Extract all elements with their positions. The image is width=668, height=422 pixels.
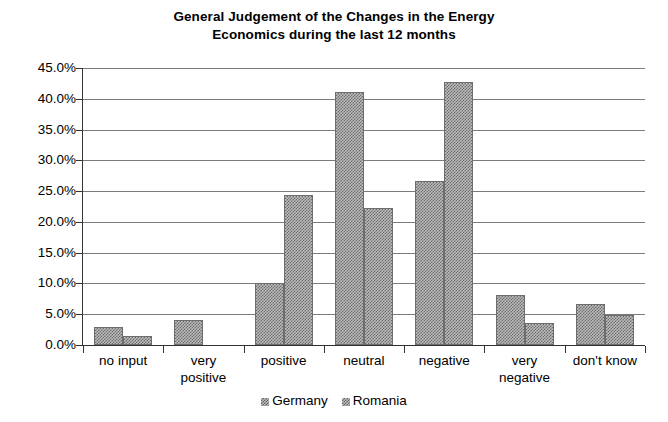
y-axis-tick-label: 40.0% — [4, 92, 76, 106]
legend-label: Romania — [353, 392, 407, 410]
x-axis-category-label-line: very — [484, 352, 564, 369]
x-axis-tick — [645, 346, 646, 353]
x-axis-category-label-line: don't know — [565, 352, 645, 369]
legend-swatch-icon — [261, 398, 269, 406]
bar-romania-very-negative — [525, 323, 554, 345]
plot-area — [83, 68, 645, 345]
x-axis-category-label: positive — [244, 352, 324, 369]
bar-germany-very-positive — [174, 320, 203, 345]
chart-title: General Judgement of the Changes in the … — [0, 8, 668, 44]
x-axis-category-label: negative — [404, 352, 484, 369]
x-axis-category-label: neutral — [324, 352, 404, 369]
x-axis-category-label-line: negative — [484, 369, 564, 386]
y-axis-tick-label: 5.0% — [4, 307, 76, 321]
legend-swatch-icon — [342, 398, 350, 406]
y-axis-tick-label: 45.0% — [4, 61, 76, 75]
x-axis-category-label: no input — [83, 352, 163, 369]
y-axis-tick-label: 15.0% — [4, 246, 76, 260]
y-axis-tick-label: 0.0% — [4, 338, 76, 352]
bar-germany-no-input — [94, 327, 123, 345]
gridline — [83, 130, 645, 131]
x-axis-category-label-line: neutral — [324, 352, 404, 369]
legend-label: Germany — [272, 392, 328, 410]
chart-title-line-1: General Judgement of the Changes in the … — [0, 8, 668, 26]
y-axis-tick-label: 30.0% — [4, 153, 76, 167]
x-axis-line — [83, 345, 645, 346]
legend-item-romania[interactable]: Romania — [342, 392, 407, 410]
bar-germany-very-negative — [496, 295, 525, 345]
bar-germany-negative — [415, 181, 444, 345]
bar-romania-no-input — [123, 336, 152, 345]
chart-legend: GermanyRomania — [0, 392, 668, 410]
y-axis-tick-label: 35.0% — [4, 123, 76, 137]
gridline — [83, 99, 645, 100]
legend-item-germany[interactable]: Germany — [261, 392, 328, 410]
gridline — [83, 68, 645, 69]
y-axis-tick-label: 25.0% — [4, 184, 76, 198]
bar-romania-negative — [444, 82, 473, 345]
x-axis-labels: no inputverypositivepositiveneutralnegat… — [83, 352, 645, 397]
x-axis-category-label-line: no input — [83, 352, 163, 369]
chart-title-line-2: Economics during the last 12 months — [0, 26, 668, 44]
bar-romania-neutral — [364, 208, 393, 345]
y-axis-tick-label: 10.0% — [4, 276, 76, 290]
bar-germany-don-t-know — [576, 304, 605, 345]
x-axis-category-label: don't know — [565, 352, 645, 369]
x-axis-category-label: verynegative — [484, 352, 564, 386]
x-axis-category-label-line: very — [163, 352, 243, 369]
bar-germany-neutral — [335, 92, 364, 345]
x-axis-category-label-line: positive — [163, 369, 243, 386]
y-axis-labels: 0.0%5.0%10.0%15.0%20.0%25.0%30.0%35.0%40… — [0, 0, 76, 422]
gridline — [83, 160, 645, 161]
x-axis-category-label: verypositive — [163, 352, 243, 386]
x-axis-category-label-line: positive — [244, 352, 324, 369]
x-axis-category-label-line: negative — [404, 352, 484, 369]
gridline — [83, 191, 645, 192]
bar-germany-positive — [255, 283, 284, 345]
bar-romania-positive — [284, 195, 313, 345]
bar-romania-don-t-know — [605, 315, 634, 345]
y-axis-tick-label: 20.0% — [4, 215, 76, 229]
